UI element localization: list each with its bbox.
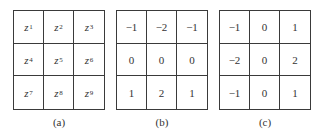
cell-sub: 9 (90, 89, 94, 97)
cell-sub: 5 (59, 56, 63, 64)
cell-a-1-1: z5 (44, 44, 74, 77)
cell-a-0-2: z3 (74, 11, 104, 44)
figure: z1 z2 z3 z4 z5 z6 z7 z8 z9 (a) −1 −2 −1 … (0, 0, 327, 135)
caption-c: (c) (219, 116, 311, 128)
panel-b: −1 −2 −1 0 0 0 1 2 1 (b) (116, 10, 208, 128)
cell-b-0-2: −1 (177, 11, 207, 44)
cell-var: z (24, 21, 28, 33)
cell-c-1-2: 2 (280, 44, 310, 77)
cell-c-0-2: 1 (280, 11, 310, 44)
cell-c-2-1: 0 (250, 76, 280, 109)
cell-sub: 1 (29, 23, 33, 31)
grid-a: z1 z2 z3 z4 z5 z6 z7 z8 z9 (13, 10, 105, 110)
cell-var: z (24, 87, 28, 99)
cell-c-0-1: 0 (250, 11, 280, 44)
cell-c-0-0: −1 (220, 11, 250, 44)
cell-b-2-2: 1 (177, 76, 207, 109)
cell-sub: 4 (29, 56, 33, 64)
cell-sub: 6 (90, 56, 94, 64)
cell-b-1-1: 0 (147, 44, 177, 77)
cell-b-1-0: 0 (117, 44, 147, 77)
cell-c-2-0: −1 (220, 76, 250, 109)
cell-sub: 2 (59, 23, 63, 31)
cell-var: z (85, 54, 89, 66)
cell-c-2-2: 1 (280, 76, 310, 109)
cell-a-2-1: z8 (44, 76, 74, 109)
cell-a-2-2: z9 (74, 76, 104, 109)
cell-var: z (24, 54, 28, 66)
cell-var: z (54, 87, 58, 99)
cell-a-1-2: z6 (74, 44, 104, 77)
cell-a-0-0: z1 (14, 11, 44, 44)
cell-var: z (54, 54, 58, 66)
cell-a-2-0: z7 (14, 76, 44, 109)
cell-b-2-0: 1 (117, 76, 147, 109)
cell-c-1-1: 0 (250, 44, 280, 77)
cell-b-0-0: −1 (117, 11, 147, 44)
cell-var: z (85, 87, 89, 99)
caption-b: (b) (116, 116, 208, 128)
cell-b-1-2: 0 (177, 44, 207, 77)
cell-sub: 7 (29, 89, 33, 97)
cell-var: z (85, 21, 89, 33)
grid-c: −1 0 1 −2 0 2 −1 0 1 (219, 10, 311, 110)
panel-c: −1 0 1 −2 0 2 −1 0 1 (c) (219, 10, 311, 128)
cell-sub: 3 (90, 23, 94, 31)
panel-a: z1 z2 z3 z4 z5 z6 z7 z8 z9 (a) (13, 10, 105, 128)
caption-a: (a) (13, 116, 105, 128)
cell-b-2-1: 2 (147, 76, 177, 109)
cell-b-0-1: −2 (147, 11, 177, 44)
cell-sub: 8 (59, 89, 63, 97)
cell-a-1-0: z4 (14, 44, 44, 77)
cell-c-1-0: −2 (220, 44, 250, 77)
cell-a-0-1: z2 (44, 11, 74, 44)
cell-var: z (54, 21, 58, 33)
grid-b: −1 −2 −1 0 0 0 1 2 1 (116, 10, 208, 110)
